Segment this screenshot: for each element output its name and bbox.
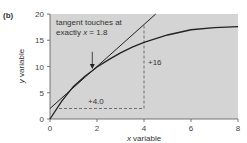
rise-label: +16 [148, 58, 162, 67]
y-tick-10: 10 [35, 63, 44, 72]
y-ticks [47, 14, 50, 119]
x-tick-labels: 0 2 4 6 8 [48, 124, 241, 133]
x-tick-8: 8 [236, 124, 241, 133]
x-tick-6: 6 [189, 124, 194, 133]
x-axis-label: x variable [126, 134, 162, 143]
run-label: +4.0 [88, 97, 104, 106]
y-tick-20: 20 [35, 10, 44, 19]
x-tick-0: 0 [48, 124, 53, 133]
y-axis-label: y variable [17, 48, 26, 84]
annotation-line-1: tangent touches at [56, 18, 123, 27]
annotation-line-2: exactly x = 1.8 [56, 28, 108, 37]
x-ticks [50, 119, 238, 122]
y-tick-0: 0 [40, 115, 45, 124]
y-tick-labels: 0 5 10 15 20 [35, 10, 44, 124]
x-tick-2: 2 [95, 124, 100, 133]
x-tick-4: 4 [142, 124, 147, 133]
chart: 0 5 10 15 20 0 2 4 6 8 x variable y vari… [0, 0, 247, 143]
y-tick-5: 5 [40, 89, 45, 98]
y-tick-15: 15 [35, 36, 44, 45]
